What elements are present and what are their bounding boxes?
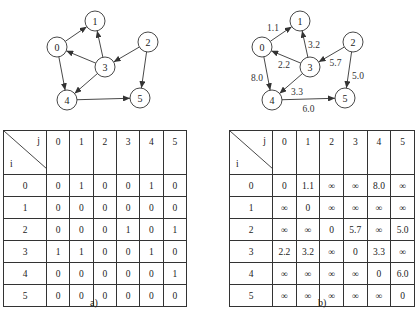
table-row: 001.1∞∞8.0∞ [230, 175, 415, 197]
matrix-cell: ∞ [391, 197, 415, 219]
edge-3-1 [302, 31, 308, 57]
matrix-cell: 0 [116, 241, 139, 263]
row-axis-label: i [236, 159, 239, 169]
column-header: 5 [163, 131, 186, 175]
matrix-cell: 0 [140, 197, 163, 219]
matrix-cell: 1 [163, 219, 186, 241]
matrix-cell: 5.0 [391, 219, 415, 241]
col-axis-label: j [263, 136, 266, 146]
edge-weight-label: 8.0 [251, 73, 263, 83]
matrix-cell: ∞ [273, 263, 297, 285]
graph-node-4: 4 [57, 90, 77, 110]
row-header: 3 [230, 241, 273, 263]
edge-0-1 [65, 27, 86, 42]
matrix-cell: 1 [70, 175, 93, 197]
column-header: 4 [140, 131, 163, 175]
matrix-cell: 0 [140, 263, 163, 285]
matrix-cell: 2.2 [273, 241, 297, 263]
matrix-cell: 0 [93, 197, 116, 219]
matrix-cell: 8.0 [367, 175, 391, 197]
matrix-cell: 0 [93, 175, 116, 197]
edge-2-5 [141, 52, 146, 88]
caption-b: b) [318, 297, 326, 308]
edge-weight-label: 5.7 [330, 58, 342, 68]
graph-node-4: 4 [262, 90, 282, 110]
table-row: 4∞∞∞∞06.0 [230, 263, 415, 285]
matrix-cell: 0 [140, 219, 163, 241]
svg-text:1: 1 [298, 16, 303, 27]
matrix-cell: ∞ [273, 285, 297, 307]
column-header: 4 [367, 131, 391, 175]
row-header: 1 [4, 197, 47, 219]
matrix-cell: 1 [140, 175, 163, 197]
svg-text:4: 4 [65, 95, 70, 106]
edge-0-4 [59, 57, 65, 90]
corner-cell: ji [4, 131, 47, 175]
edge-4-5 [77, 98, 130, 99]
matrix-cell: 0 [163, 175, 186, 197]
table-row: 0010010 [4, 175, 187, 197]
svg-text:5: 5 [138, 93, 143, 104]
svg-text:5: 5 [343, 93, 348, 104]
matrix-cell: 0 [93, 219, 116, 241]
graph-node-2: 2 [343, 32, 363, 52]
svg-text:3: 3 [308, 62, 313, 73]
matrix-cell: ∞ [367, 285, 391, 307]
column-header: 2 [320, 131, 344, 175]
matrix-cell: ∞ [273, 219, 297, 241]
matrix-cell: 0 [391, 285, 415, 307]
matrix-cell: 0 [47, 285, 70, 307]
header-row: ji012345 [4, 131, 187, 175]
table-row: 3110010 [4, 241, 187, 263]
matrix-cell: 0 [163, 285, 186, 307]
table-row: 32.23.2∞03.3∞ [230, 241, 415, 263]
matrix-cell: ∞ [367, 197, 391, 219]
row-header: 4 [230, 263, 273, 285]
row-header: 3 [4, 241, 47, 263]
matrix-cell: 0 [70, 197, 93, 219]
matrix-cell: 0 [163, 197, 186, 219]
row-header: 2 [4, 219, 47, 241]
edge-3-4 [75, 74, 98, 94]
svg-text:4: 4 [270, 95, 275, 106]
matrix-cell: ∞ [320, 263, 344, 285]
svg-text:1: 1 [93, 16, 98, 27]
corner-cell: ji [230, 131, 273, 175]
table-row: 1000000 [4, 197, 187, 219]
table-row: 1∞0∞∞∞∞ [230, 197, 415, 219]
svg-text:2: 2 [146, 37, 151, 48]
matrix-cell: 0 [93, 263, 116, 285]
edge-weight-label: 5.0 [352, 71, 364, 81]
row-header: 1 [230, 197, 273, 219]
table-row: 4000001 [4, 263, 187, 285]
graph-node-3: 3 [300, 57, 320, 77]
column-header: 1 [70, 131, 93, 175]
column-header: 0 [47, 131, 70, 175]
graph-node-5: 5 [335, 88, 355, 108]
edge-weight-label: 2.2 [278, 60, 290, 70]
weight-matrix-table: ji012345001.1∞∞8.0∞1∞0∞∞∞∞2∞∞05.7∞5.032.… [229, 130, 415, 307]
col-axis-label: j [37, 136, 40, 146]
matrix-cell: 0 [320, 219, 344, 241]
matrix-cell: ∞ [296, 285, 320, 307]
edge-3-0 [66, 51, 96, 63]
matrix-cell: 0 [273, 175, 297, 197]
edge-weight-label: 3.2 [308, 40, 320, 50]
matrix-cell: 5.7 [343, 219, 367, 241]
matrix-cell: 0 [140, 285, 163, 307]
graph-node-0: 0 [252, 37, 272, 57]
svg-text:2: 2 [351, 37, 356, 48]
caption-a: a) [90, 297, 98, 308]
column-header: 3 [116, 131, 139, 175]
matrix-cell: ∞ [391, 175, 415, 197]
matrix-cell: 6.0 [391, 263, 415, 285]
svg-text:3: 3 [103, 62, 108, 73]
matrix-cell: 0 [163, 241, 186, 263]
graph-node-1: 1 [85, 11, 105, 31]
header-row: ji012345 [230, 131, 415, 175]
matrix-cell: ∞ [343, 285, 367, 307]
matrix-cell: ∞ [320, 175, 344, 197]
matrix-cell: 3.2 [296, 241, 320, 263]
matrix-cell: ∞ [391, 241, 415, 263]
matrix-cell: 0 [47, 219, 70, 241]
